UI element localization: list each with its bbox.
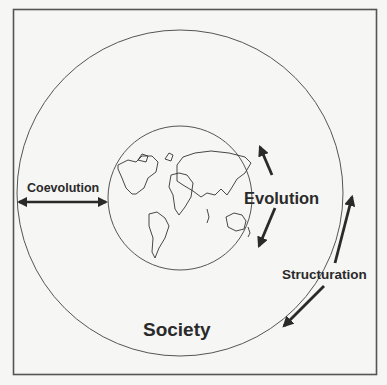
diagram-canvas: Coevolution Evolution Structuration Soci… [0,0,387,385]
nature-circle [108,126,252,270]
evolution-arrow-up [260,147,272,175]
coevolution-label: Coevolution [27,181,99,195]
structuration-arrow-down [284,286,324,326]
world-map-icon [118,151,251,258]
structuration-label: Structuration [282,267,367,282]
society-label: Society [143,319,211,340]
evolution-arrow-down [259,208,275,246]
evolution-label: Evolution [244,189,319,207]
structuration-arrow-up [335,197,352,263]
